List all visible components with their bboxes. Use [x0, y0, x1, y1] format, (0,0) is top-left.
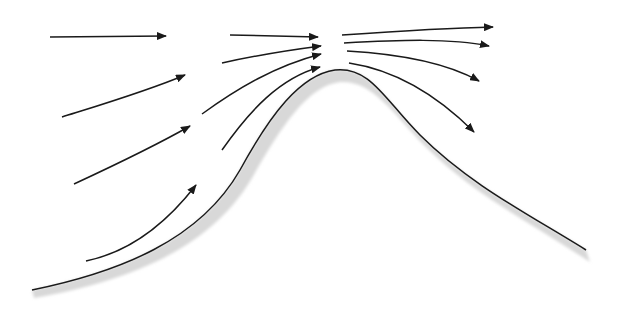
streamline-arrow-mid-2 — [222, 46, 321, 63]
streamline-arrow-right-4 — [349, 63, 474, 132]
streamline-arrow-mid-1 — [230, 35, 318, 37]
streamline-arrow-left-4 — [86, 185, 196, 261]
streamline-arrow-left-1 — [50, 36, 166, 37]
streamline-arrow-right-2 — [344, 40, 489, 46]
diagram-canvas — [0, 0, 621, 314]
hill-outline — [32, 70, 586, 290]
orographic-flow-diagram — [0, 0, 621, 314]
hill-shadow — [32, 70, 590, 298]
streamline-arrow-right-1 — [342, 27, 493, 35]
streamline-arrow-left-2 — [62, 75, 185, 117]
streamline-arrow-left-3 — [74, 126, 190, 184]
